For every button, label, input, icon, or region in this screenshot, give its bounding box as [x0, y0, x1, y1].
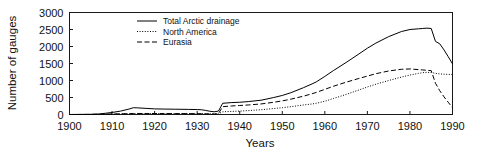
- x-axis-title: Years: [246, 137, 275, 149]
- y-axis-title: Number of gauges: [6, 15, 18, 110]
- legend-label: North America: [163, 27, 217, 37]
- x-tick-label: 1920: [142, 120, 166, 132]
- x-tick-label: 1980: [398, 120, 422, 132]
- y-tick-label: 0: [57, 109, 63, 121]
- legend-label: Total Arctic drainage: [163, 16, 240, 26]
- y-tick-label: 1000: [39, 75, 63, 87]
- y-tick-label: 3000: [39, 7, 63, 19]
- y-tick-label: 1500: [39, 58, 63, 70]
- line-chart: 1900191019201930194019501960197019801990…: [0, 0, 485, 154]
- x-tick-label: 1960: [313, 120, 337, 132]
- x-tick-label: 1930: [185, 120, 209, 132]
- x-tick-label: 1990: [440, 120, 464, 132]
- y-tick-label: 2500: [39, 24, 63, 36]
- legend-label: Eurasia: [163, 37, 192, 47]
- x-tick-label: 1950: [270, 120, 294, 132]
- chart-figure: 1900191019201930194019501960197019801990…: [0, 0, 485, 154]
- x-tick-label: 1910: [100, 120, 124, 132]
- y-tick-label: 2000: [39, 41, 63, 53]
- y-tick-label: 500: [45, 92, 63, 104]
- x-tick-label: 1900: [57, 120, 81, 132]
- x-tick-label: 1970: [355, 120, 379, 132]
- x-tick-label: 1940: [227, 120, 251, 132]
